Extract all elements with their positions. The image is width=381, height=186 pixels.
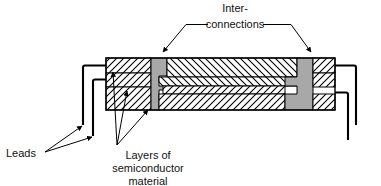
- left-layer-bottom: [106, 87, 151, 110]
- diagram-canvas: Inter- connections Leads Layers of semic…: [0, 0, 381, 186]
- right-layer-top: [313, 58, 335, 73]
- center-layer-3: [163, 86, 285, 94]
- lead-left-lower: [93, 80, 106, 137]
- leads-leader-lower: [45, 137, 92, 152]
- package-body: [106, 58, 335, 110]
- leads-label: Leads: [6, 147, 36, 159]
- center-layer-2: [159, 77, 297, 86]
- right-block: [313, 58, 335, 110]
- lead-right-upper: [335, 66, 356, 126]
- right-layer-mid: [313, 73, 335, 87]
- leads-leader-upper: [45, 126, 82, 152]
- semiconductor-leader-bottom: [117, 110, 148, 145]
- right-layer-bottom: [313, 94, 335, 110]
- center-layer-4: [159, 94, 285, 110]
- interconnections-label-line1: Inter-: [222, 2, 248, 14]
- semiconductor-label-line3: material: [128, 175, 167, 186]
- semiconductor-label-line2: semiconductor: [112, 162, 184, 174]
- lead-left-upper: [83, 66, 106, 126]
- label-interconnections: Inter- connections: [206, 2, 265, 30]
- lead-right-lower: [335, 93, 348, 141]
- semiconductor-cross-section-diagram: Inter- connections Leads Layers of semic…: [0, 0, 381, 186]
- semiconductor-label-line1: Layers of: [125, 149, 171, 161]
- interconnections-leader-left: [163, 25, 208, 53]
- left-layer-top: [106, 58, 151, 73]
- label-semiconductor: Layers of semiconductor material: [112, 149, 184, 186]
- center-layer-1: [167, 58, 297, 77]
- leads-leaders: [45, 126, 92, 152]
- leads-left-group: [83, 66, 106, 137]
- leads-right-group: [335, 66, 356, 141]
- left-block: [106, 58, 151, 110]
- interconnections-leader-right: [263, 25, 311, 53]
- interconnections-label-line2: connections: [206, 18, 265, 30]
